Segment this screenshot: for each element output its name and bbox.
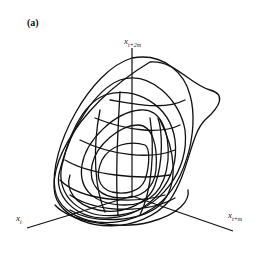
attractor-plot bbox=[0, 0, 261, 272]
trajectory bbox=[54, 57, 220, 226]
